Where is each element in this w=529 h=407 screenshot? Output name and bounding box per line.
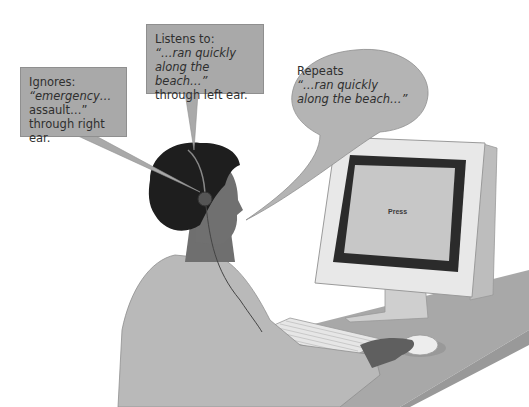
ignores-label-box: Ignores: “emergency… assault…” through r…	[20, 67, 127, 137]
listens-line2: “…ran quickly	[155, 46, 255, 60]
headphone-earcup	[198, 192, 212, 206]
screen-press-text: Press	[388, 208, 407, 215]
ignores-line2: “emergency…	[29, 89, 118, 103]
repeats-line2: “…ran quickly	[297, 78, 427, 92]
ignores-line1: Ignores:	[29, 75, 118, 89]
listens-line3: along the beach…”	[155, 60, 255, 88]
illustration-scene	[0, 0, 529, 407]
listens-line4: through left ear.	[155, 88, 255, 102]
repeats-line1: Repeats	[297, 64, 427, 78]
listens-label-box: Listens to: “…ran quickly along the beac…	[146, 24, 264, 94]
repeats-bubble-text: Repeats “…ran quickly along the beach…”	[297, 64, 427, 106]
listens-line1: Listens to:	[155, 32, 255, 46]
ignores-line3: assault…”	[29, 103, 118, 117]
repeats-line3: along the beach…”	[297, 92, 427, 106]
ignores-line4: through right ear.	[29, 117, 118, 145]
